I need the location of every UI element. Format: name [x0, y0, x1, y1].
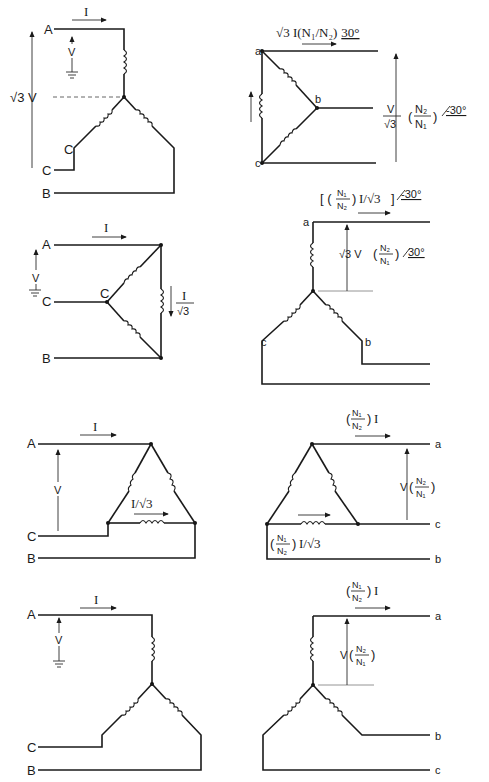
winding-current-label: I/√3 — [131, 496, 153, 511]
coil-icon — [288, 473, 295, 491]
coil-icon — [124, 321, 140, 337]
svg-text:(: ( — [346, 583, 351, 598]
svg-text:): ) — [367, 583, 371, 598]
svg-text:): ) — [395, 246, 399, 261]
row2-secondary-wye: a c b [ ( N₁ N₂ ) I/√3 ] -30° √3 V ( — [261, 188, 430, 384]
row3-primary-delta: A C B I V I/√3 — [27, 419, 197, 566]
winding-current-label: ( N₁ N₂ ) I/√3 — [270, 533, 321, 556]
svg-text:-30°: -30° — [401, 188, 421, 200]
svg-text:30°: 30° — [408, 246, 425, 258]
terminal-A: A — [42, 237, 51, 252]
terminal-B: B — [27, 763, 36, 778]
svg-text:I: I — [182, 288, 186, 303]
voltage-label: V — [55, 634, 63, 646]
secondary-voltage-label: √3 V ( N₂ N₁ ) 30° — [339, 243, 425, 266]
current-label: I — [104, 220, 108, 235]
ground-icon — [66, 72, 78, 78]
svg-text:I: I — [374, 583, 378, 598]
terminal-B: B — [42, 351, 51, 366]
winding-label-C: C — [64, 142, 73, 157]
terminal-c: c — [435, 518, 441, 530]
coil-icon — [311, 243, 314, 267]
current-label: I — [93, 419, 97, 434]
terminal-c: c — [435, 764, 441, 776]
coil-icon — [326, 305, 342, 321]
voltage-label: V — [32, 272, 40, 284]
coil-icon — [166, 699, 182, 715]
terminal-A: A — [44, 22, 53, 37]
row1-primary-wye: A C B C I V √3 V — [10, 4, 174, 201]
coil-icon — [260, 94, 263, 118]
svg-text:N₂: N₂ — [352, 421, 362, 431]
terminal-C: C — [42, 294, 51, 309]
terminal-b: b — [315, 93, 321, 105]
coil-icon — [311, 637, 314, 661]
terminal-a: a — [435, 438, 442, 450]
coil-icon — [280, 129, 296, 145]
svg-text:): ) — [371, 647, 375, 662]
line-voltage-label: √3 V — [10, 90, 37, 105]
svg-text:N₂: N₂ — [356, 644, 366, 654]
svg-text:(: ( — [408, 109, 413, 124]
svg-text:N₂: N₂ — [277, 546, 287, 556]
transformer-connection-diagram: A C B C I V √3 V a b — [0, 0, 489, 782]
ground-icon — [53, 661, 65, 667]
svg-text:-30°: -30° — [446, 104, 466, 116]
winding-current-label: I √3 — [176, 288, 194, 317]
secondary-current-label: ( N₁ N₂ ) I — [346, 580, 378, 603]
svg-text:N₁: N₁ — [415, 118, 427, 130]
terminal-B: B — [42, 186, 51, 201]
row2-primary-delta: A C B C I V I √3 — [29, 220, 194, 366]
coil-icon — [329, 473, 336, 491]
svg-text:]: ] — [391, 191, 395, 206]
terminal-B: B — [27, 551, 36, 566]
secondary-current-label: ( N₁ N₂ ) I — [346, 408, 378, 431]
svg-text:(: ( — [409, 479, 414, 494]
secondary-voltage-label: V ( N₂ N₁ ) — [340, 644, 375, 667]
coil-icon — [128, 473, 135, 491]
row1-secondary-delta: a b c √3 I(N₁/N₂)30° V √3 ( N₂ — [251, 25, 466, 169]
row3-secondary-delta: a c b ( N₁ N₂ ) I V ( N₂ — [265, 408, 442, 565]
secondary-current-label: √3 I(N₁/N₂)30° — [276, 25, 360, 40]
ground-icon — [29, 290, 41, 296]
svg-text:): ) — [352, 191, 356, 206]
svg-text:V: V — [387, 103, 395, 115]
svg-text:N₁: N₁ — [337, 188, 347, 198]
svg-text:): ) — [431, 479, 435, 494]
coil-icon — [140, 521, 164, 524]
svg-text:N₁: N₁ — [380, 256, 390, 266]
svg-text:I: I — [374, 411, 378, 426]
terminal-C: C — [27, 529, 36, 544]
terminal-b: b — [435, 730, 441, 742]
current-label: I — [84, 4, 88, 19]
svg-text:(: ( — [270, 536, 275, 551]
coil-icon — [284, 699, 300, 715]
coil-icon — [136, 110, 152, 126]
svg-text:N₁: N₁ — [356, 657, 366, 667]
svg-text:N₂: N₂ — [380, 243, 390, 253]
svg-text:N₁: N₁ — [277, 533, 287, 543]
svg-text:(: ( — [346, 411, 351, 426]
row4-secondary-wye: a b c ( N₁ N₂ ) I V ( N₂ N₁ ) — [263, 580, 442, 776]
svg-text:(: ( — [373, 246, 378, 261]
coil-icon — [152, 637, 155, 661]
svg-text:V: V — [340, 649, 348, 661]
secondary-current-label: [ ( N₁ N₂ ) I/√3 ] -30° — [320, 188, 421, 211]
terminal-a: a — [303, 216, 310, 228]
terminal-b: b — [365, 336, 371, 348]
coil-icon — [280, 69, 296, 85]
coil-icon — [168, 473, 175, 491]
line-A — [54, 29, 124, 50]
svg-text:): ) — [433, 109, 437, 124]
svg-text:N₂: N₂ — [415, 103, 427, 115]
svg-text:N₂: N₂ — [337, 201, 347, 211]
coil-icon — [326, 699, 342, 715]
svg-text:√3: √3 — [177, 305, 189, 317]
terminal-A: A — [27, 436, 36, 451]
svg-text:N₁: N₁ — [352, 408, 362, 418]
svg-text:V: V — [400, 481, 408, 493]
voltage-label: V — [54, 484, 62, 496]
svg-text:(: ( — [349, 647, 354, 662]
terminal-b: b — [435, 553, 441, 565]
terminal-C: C — [27, 740, 36, 755]
